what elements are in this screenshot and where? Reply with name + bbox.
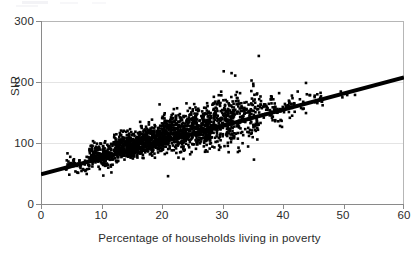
- x-axis-title: Percentage of households living in pover…: [0, 232, 419, 244]
- y-tick-label-300: 300: [0, 15, 34, 27]
- x-tick-label-40: 40: [263, 209, 303, 221]
- scan-artifact: [22, 1, 48, 4]
- scatter-plot-figure: 300 200 100 0 0 10 20 30 40 50 60 SIR Pe…: [0, 0, 419, 260]
- scan-artifact: [60, 2, 78, 4]
- x-tick-label-30: 30: [202, 209, 242, 221]
- regression-line: [41, 21, 404, 205]
- x-tick-label-20: 20: [142, 209, 182, 221]
- x-tick-label-60: 60: [384, 209, 419, 221]
- plot-area: [41, 21, 404, 205]
- x-tick-label-50: 50: [323, 209, 363, 221]
- x-tick-label-0: 0: [21, 209, 61, 221]
- scan-artifact: [16, 5, 38, 7]
- x-tick-label-10: 10: [81, 209, 121, 221]
- scan-artifact: [92, 2, 106, 4]
- y-tick-label-100: 100: [0, 137, 34, 149]
- y-axis-title: SIR: [9, 76, 21, 96]
